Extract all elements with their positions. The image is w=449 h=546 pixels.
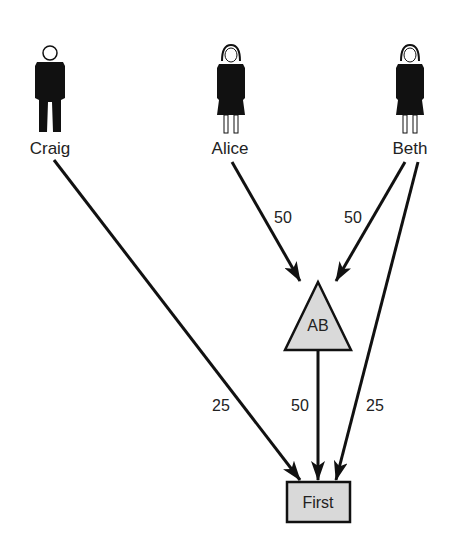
edge-weight-beth-first: 25 bbox=[366, 398, 384, 414]
diagram-canvas: Craig Alice Beth AB First 50 50 25 50 25 bbox=[0, 0, 449, 546]
group-node-ab bbox=[285, 282, 351, 350]
female-person-icon bbox=[396, 45, 424, 133]
edge-weight-craig-first: 25 bbox=[212, 398, 230, 414]
edge-weight-alice-ab: 50 bbox=[274, 210, 292, 226]
target-node-label: First bbox=[302, 495, 333, 511]
female-person-icon bbox=[217, 45, 245, 133]
edge-weight-beth-ab: 50 bbox=[344, 210, 362, 226]
male-person-icon bbox=[35, 46, 65, 132]
edge-weight-ab-first: 50 bbox=[291, 398, 309, 414]
edge-craig-first bbox=[54, 160, 300, 480]
person-label-alice: Alice bbox=[212, 140, 249, 157]
person-label-beth: Beth bbox=[393, 140, 428, 157]
diagram-svg bbox=[0, 0, 449, 546]
group-node-label: AB bbox=[307, 318, 328, 334]
person-label-craig: Craig bbox=[30, 140, 71, 157]
